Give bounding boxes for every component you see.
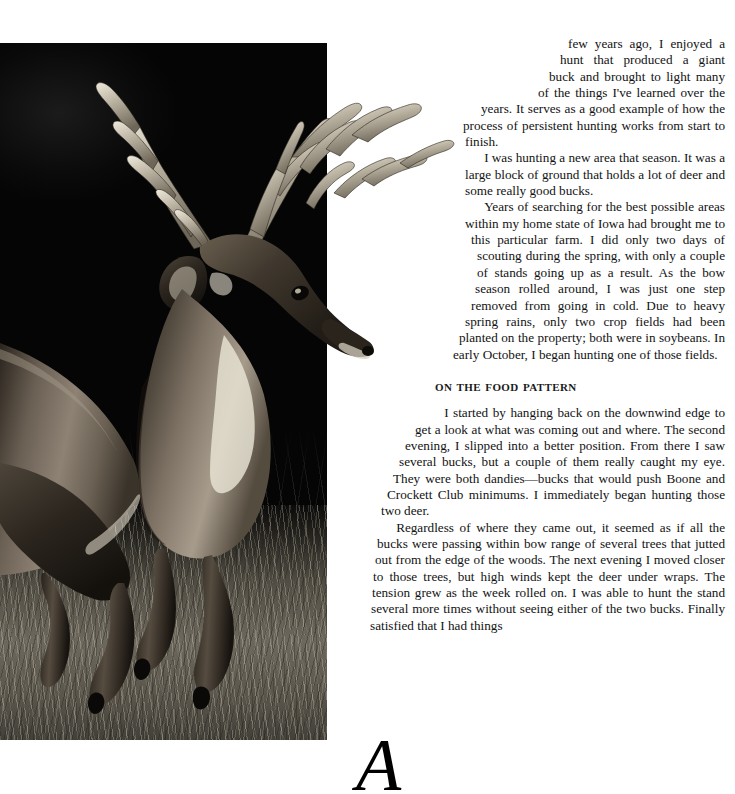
- wrap-carve: [353, 311, 465, 327]
- wrap-carve: [353, 457, 393, 473]
- wrap-carve: [353, 52, 560, 68]
- wrap-carve: [353, 230, 465, 246]
- wrap-carve: [353, 360, 447, 376]
- wrap-carve: [353, 262, 477, 279]
- wrap-carve: [353, 343, 453, 360]
- wrap-carve: [353, 214, 457, 230]
- wrap-carve: [353, 573, 372, 589]
- wrap-carve: [353, 489, 381, 505]
- wrap-carve: [353, 376, 435, 392]
- wrap-carve: [353, 703, 360, 719]
- wrap-carve: [353, 589, 371, 605]
- wrap-carve: [353, 295, 471, 311]
- wrap-carve: [353, 622, 369, 638]
- drop-cap-letter: A: [356, 737, 399, 794]
- wrap-carve: [353, 181, 431, 198]
- buck-photograph: [0, 43, 327, 740]
- wrap-carve: [353, 541, 375, 557]
- wrap-carve: [353, 68, 549, 84]
- wrap-carve: [353, 133, 445, 149]
- photo-grass-field: [0, 505, 327, 740]
- wrap-carve: [353, 279, 475, 295]
- wrap-carve: [353, 505, 377, 541]
- wrap-carve: [353, 441, 399, 457]
- wrap-carve: [353, 638, 368, 654]
- wrap-carve: [353, 198, 449, 214]
- wrap-carve: [353, 605, 370, 622]
- wrap-carve: [353, 392, 425, 408]
- wrap-carve: [353, 84, 538, 100]
- wrap-carve: [353, 654, 366, 670]
- wrap-carve: [353, 100, 481, 117]
- wrap-carve: [353, 327, 459, 343]
- article-text-column: Afew years ago, I enjoyed a hunt that pr…: [353, 36, 725, 750]
- photo-grass-tips: [0, 425, 327, 515]
- wrap-carve: [353, 686, 362, 703]
- wrap-carve: [353, 473, 387, 489]
- wrap-carve: [353, 670, 364, 686]
- section-paragraph-2: Regardless of where they came out, it se…: [353, 520, 725, 634]
- wrap-carve: [353, 117, 463, 133]
- wrap-carve: [353, 165, 405, 181]
- wrap-carve: [353, 149, 421, 165]
- wrap-carve: [353, 36, 568, 52]
- wrap-carve: [353, 557, 373, 573]
- wrap-carve: [353, 246, 471, 262]
- wrap-carve: [353, 408, 415, 424]
- wrap-carve: [353, 424, 405, 441]
